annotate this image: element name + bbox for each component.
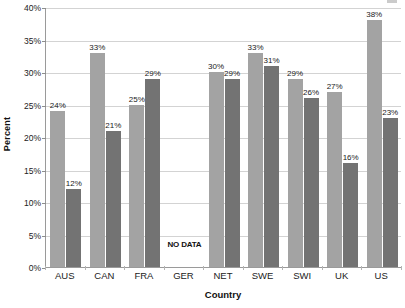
x-tick-mark	[45, 266, 46, 270]
bar: 33%	[248, 53, 263, 268]
bar-value-label: 33%	[89, 44, 105, 52]
x-axis-title: Country	[45, 289, 401, 300]
bar: 21%	[106, 131, 121, 268]
x-tick-mark	[203, 266, 204, 270]
bar-group: 24%12%	[50, 8, 81, 267]
y-tick-label: 5%	[29, 231, 41, 241]
bar-value-label: 16%	[343, 154, 359, 162]
bar-value-label: 27%	[327, 83, 343, 91]
bar-group: 29%26%	[288, 8, 319, 267]
bar-group: 33%31%	[248, 8, 279, 267]
bar: 33%	[90, 53, 105, 268]
y-tick-label: 15%	[24, 166, 41, 176]
bar-value-label: 29%	[224, 70, 240, 78]
x-tick-mark	[164, 266, 165, 270]
no-data-annotation: NO DATA	[168, 240, 202, 249]
bar-value-label: 23%	[382, 109, 398, 117]
bars-layer: 24%12%33%21%25%29%NO DATA30%29%33%31%29%…	[46, 8, 401, 267]
y-tick-label: 40%	[24, 3, 41, 13]
bar: 31%	[264, 66, 279, 268]
x-tick-mark	[322, 266, 323, 270]
x-tick-mark	[361, 266, 362, 270]
x-tick-label: US	[375, 270, 388, 281]
x-tick-mark	[124, 266, 125, 270]
x-tick-label: CAN	[94, 270, 114, 281]
bar: 38%	[367, 20, 382, 267]
bar: 16%	[343, 163, 358, 267]
x-tick-mark	[85, 266, 86, 270]
bar-value-label: 12%	[66, 180, 82, 188]
bar-group: NO DATA	[169, 8, 200, 267]
y-tick-label: 20%	[24, 133, 41, 143]
bar: 24%	[50, 111, 65, 267]
bar: 30%	[209, 72, 224, 267]
bar-value-label: 26%	[303, 89, 319, 97]
bar-value-label: 38%	[366, 11, 382, 19]
bar-value-label: 21%	[105, 122, 121, 130]
y-tick-label: 10%	[24, 198, 41, 208]
x-tick-label: NET	[214, 270, 233, 281]
bar-value-label: 33%	[248, 44, 264, 52]
bar: 29%	[225, 79, 240, 268]
bar-value-label: 24%	[50, 102, 66, 110]
bar: 25%	[129, 105, 144, 268]
x-tick-label: FRA	[134, 270, 153, 281]
plot-area: 24%12%33%21%25%29%NO DATA30%29%33%31%29%…	[45, 8, 401, 268]
y-axis-title-label: Percent	[2, 117, 12, 151]
y-tick-label: 0%	[29, 263, 41, 273]
bar: 12%	[66, 189, 81, 267]
x-tick-mark	[282, 266, 283, 270]
x-tick-label: SWI	[293, 270, 311, 281]
bar-value-label: 30%	[208, 63, 224, 71]
y-tick-label: 25%	[24, 101, 41, 111]
x-tick-mark	[401, 266, 402, 270]
bar: 23%	[383, 118, 398, 268]
y-axis-title: Percent	[0, 0, 14, 268]
bar: 27%	[327, 92, 342, 268]
bar-group: 27%16%	[327, 8, 358, 267]
x-axis-tick-labels: AUSCANFRAGERNETSWESWIUKUS	[45, 270, 401, 286]
bar-value-label: 31%	[264, 57, 280, 65]
bar: 29%	[145, 79, 160, 268]
x-tick-label: GER	[173, 270, 194, 281]
x-tick-label: SWE	[252, 270, 274, 281]
bar: 29%	[288, 79, 303, 268]
bar-group: 30%29%	[209, 8, 240, 267]
bar: 26%	[304, 98, 319, 267]
cropped-top-element	[387, 0, 397, 3]
bar-value-label: 29%	[287, 70, 303, 78]
bar-group: 33%21%	[90, 8, 121, 267]
x-tick-label: AUS	[55, 270, 75, 281]
bar-value-label: 25%	[129, 96, 145, 104]
x-tick-mark	[243, 266, 244, 270]
x-tick-label: UK	[335, 270, 348, 281]
y-tick-label: 30%	[24, 68, 41, 78]
bar-chart: Percent 0%5%10%15%20%25%30%35%40% 24%12%…	[0, 0, 405, 308]
bar-value-label: 29%	[145, 70, 161, 78]
y-tick-label: 35%	[24, 36, 41, 46]
y-axis-tick-labels: 0%5%10%15%20%25%30%35%40%	[14, 0, 44, 268]
bar-group: 25%29%	[129, 8, 160, 267]
bar-group: 38%23%	[367, 8, 398, 267]
